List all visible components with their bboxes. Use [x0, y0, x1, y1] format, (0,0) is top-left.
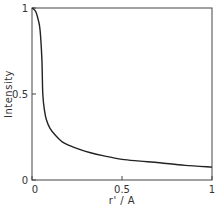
y-tick-label: 0: [22, 175, 28, 186]
x-tick-label: 0: [32, 184, 38, 195]
x-tick-label: 1: [209, 184, 215, 195]
y-tick-label: 0.5: [12, 89, 28, 100]
y-axis-label: Intensity: [3, 70, 14, 118]
x-axis-ticks: 00.51: [32, 176, 215, 195]
y-tick-label: 1: [22, 3, 28, 14]
intensity-curve: [32, 8, 212, 167]
intensity-chart: 00.51 00.51 Intensity r' / A: [0, 0, 220, 209]
x-tick-label: 0.5: [114, 184, 130, 195]
plot-frame: [32, 8, 212, 180]
x-axis-label: r' / A: [109, 195, 135, 206]
